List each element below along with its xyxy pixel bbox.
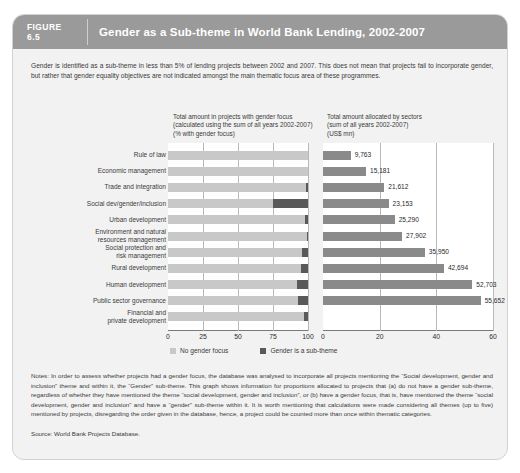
right-axis-line	[323, 330, 493, 331]
category-label: Urban development	[26, 216, 166, 224]
figure-header: FIGURE 6.5 Gender as a Sub-theme in Worl…	[13, 15, 508, 49]
bar-value-label: 9,763	[355, 151, 372, 159]
right-chart-title: Total amount allocated by sectors(sum of…	[327, 113, 477, 138]
stacked-bar-row	[168, 199, 308, 208]
gridline	[308, 143, 309, 331]
stacked-bar-row	[168, 264, 308, 273]
bar	[323, 167, 366, 176]
bar	[323, 248, 425, 257]
bar-segment-gender-sub-theme	[305, 215, 308, 224]
bar-value-label: 25,290	[399, 216, 419, 224]
bar-segment-no-gender-focus	[168, 215, 305, 224]
stacked-bar-row	[168, 183, 308, 192]
bar-segment-gender-sub-theme	[273, 199, 308, 208]
bar-segment-gender-sub-theme	[306, 183, 308, 192]
bar	[323, 264, 444, 273]
category-label: Environment and naturalresources managem…	[26, 228, 166, 244]
right-xtick-label: 0	[321, 333, 325, 340]
left-xtick-label: 50	[234, 333, 242, 340]
bar-row: 52,703	[323, 280, 493, 289]
bar-value-label: 23,153	[393, 200, 413, 208]
bar	[323, 280, 472, 289]
bar	[323, 183, 384, 192]
bar-row: 21,612	[323, 183, 493, 192]
left-chart-xticks: 0255075100	[168, 333, 308, 345]
bar	[323, 199, 389, 208]
left-chart-title: Total amount in projects with gender foc…	[173, 113, 323, 138]
right-xtick-label: 60	[489, 333, 497, 340]
bar	[323, 151, 351, 160]
figure-card: FIGURE 6.5 Gender as a Sub-theme in Worl…	[12, 14, 508, 460]
legend-label-no-gender-focus: No gender focus	[180, 347, 228, 354]
category-label: Social protection andrisk management	[26, 244, 166, 260]
category-label: Trade and integration	[26, 183, 166, 191]
figure-label: FIGURE 6.5	[13, 22, 87, 43]
left-xtick-label: 25	[199, 333, 207, 340]
right-chart-title-line-2: (sum of all years 2002-2007)	[327, 121, 477, 129]
bar	[323, 296, 481, 305]
figure-label-text: FIGURE	[27, 22, 62, 32]
bar-segment-no-gender-focus	[168, 183, 306, 192]
bar-row: 27,902	[323, 232, 493, 241]
bar	[323, 215, 395, 224]
left-xtick-label: 75	[269, 333, 277, 340]
stacked-bar-row	[168, 215, 308, 224]
chart-legend: No gender focus Gender is a sub-theme	[170, 347, 337, 354]
left-chart-title-line-2: (calculated using the sum of all years 2…	[173, 121, 323, 129]
bar-segment-gender-sub-theme	[302, 248, 308, 257]
stacked-bar-row	[168, 312, 308, 321]
legend-item-gender-sub-theme: Gender is a sub-theme	[260, 347, 337, 354]
bar-segment-gender-sub-theme	[298, 296, 309, 305]
bar-segment-gender-sub-theme	[307, 232, 308, 241]
bar-segment-no-gender-focus	[168, 296, 298, 305]
bar-row: 23,153	[323, 199, 493, 208]
legend-item-no-gender-focus: No gender focus	[170, 347, 228, 354]
source-line: Source: World Bank Projects Database.	[31, 429, 493, 438]
bar-row: 15,181	[323, 167, 493, 176]
category-axis-labels: Rule of lawEconomic managementTrade and …	[21, 143, 166, 331]
left-chart-title-line-3: (% with gender focus)	[173, 130, 323, 138]
category-label: Rule of law	[26, 151, 166, 159]
bar-row: 42,694	[323, 264, 493, 273]
category-label: Financial andprivate development	[26, 309, 166, 325]
stacked-bar-row	[168, 280, 308, 289]
charts-container: Total amount in projects with gender foc…	[13, 97, 508, 365]
page-title: Gender as a Sub-theme in World Bank Lend…	[88, 26, 425, 38]
left-chart-plot-area	[168, 143, 308, 331]
stacked-bar-row	[168, 248, 308, 257]
bar-segment-no-gender-focus	[168, 264, 301, 273]
left-chart-title-line-1: Total amount in projects with gender foc…	[173, 113, 323, 121]
bar-segment-no-gender-focus	[168, 232, 307, 241]
right-chart-plot-area: 9,76315,18121,61223,15325,29027,90235,95…	[323, 143, 493, 331]
legend-swatch-dark	[260, 348, 266, 354]
bar-segment-no-gender-focus	[168, 199, 273, 208]
bar-segment-no-gender-focus	[168, 280, 297, 289]
figure-number: 6.5	[27, 32, 87, 43]
bar-value-label: 52,703	[476, 281, 496, 289]
right-xtick-label: 40	[433, 333, 441, 340]
bar-row: 9,763	[323, 151, 493, 160]
bar-value-label: 27,902	[406, 232, 426, 240]
category-label: Human development	[26, 281, 166, 289]
stacked-bar-row	[168, 232, 308, 241]
left-xtick-label: 0	[166, 333, 170, 340]
notes-paragraph: Notes: In order to assess whether projec…	[31, 371, 493, 419]
right-xtick-label: 20	[376, 333, 384, 340]
bar-segment-gender-sub-theme	[301, 264, 308, 273]
bar-value-label: 35,950	[429, 248, 449, 256]
right-chart-title-line-3: (US$ mn)	[327, 130, 477, 138]
stacked-bar-row	[168, 151, 308, 160]
bar-segment-gender-sub-theme	[297, 280, 308, 289]
bar-row: 55,652	[323, 296, 493, 305]
bar-value-label: 55,652	[485, 297, 505, 305]
right-chart-xticks: 0204060	[323, 333, 493, 345]
stacked-bar-row	[168, 296, 308, 305]
category-label: Economic management	[26, 167, 166, 175]
right-chart-title-line-1: Total amount allocated by sectors	[327, 113, 477, 121]
bar-segment-no-gender-focus	[168, 151, 308, 160]
category-label: Public sector governance	[26, 297, 166, 305]
legend-label-gender-sub-theme: Gender is a sub-theme	[270, 347, 337, 354]
left-xtick-label: 100	[302, 333, 313, 340]
bar-row: 35,950	[323, 248, 493, 257]
intro-paragraph: Gender is identified as a sub-theme in l…	[31, 61, 493, 81]
